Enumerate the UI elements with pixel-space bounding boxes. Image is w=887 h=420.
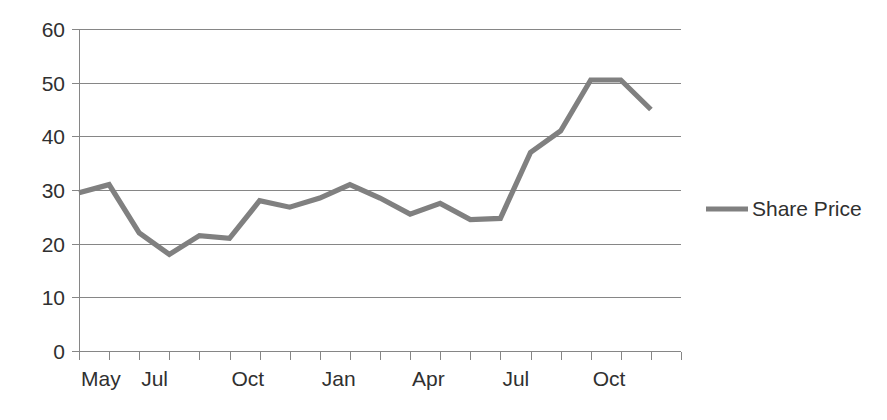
y-tick-label-50: 50 xyxy=(42,72,65,95)
y-tick-label-20: 20 xyxy=(42,233,65,256)
y-tick-label-10: 10 xyxy=(42,286,65,309)
y-tick-label-0: 0 xyxy=(53,340,65,363)
x-tick-label-Apr: Apr xyxy=(412,367,445,390)
y-tick-label-60: 60 xyxy=(42,18,65,41)
legend-label-share-price: Share Price xyxy=(752,197,862,220)
x-tick-label-May: May xyxy=(81,367,121,390)
y-tick-label-40: 40 xyxy=(42,125,65,148)
chart-canvas: 0102030405060 MayJulOctJanAprJulOct Shar… xyxy=(0,0,887,420)
share-price-line-chart: 0102030405060 MayJulOctJanAprJulOct Shar… xyxy=(0,0,887,420)
x-tick-label-Jul: Jul xyxy=(502,367,529,390)
x-tick-label-Oct: Oct xyxy=(232,367,265,390)
x-tick-label-Jan: Jan xyxy=(322,367,356,390)
x-tick-label-Oct: Oct xyxy=(593,367,626,390)
y-tick-label-30: 30 xyxy=(42,179,65,202)
x-tick-label-Jul: Jul xyxy=(141,367,168,390)
